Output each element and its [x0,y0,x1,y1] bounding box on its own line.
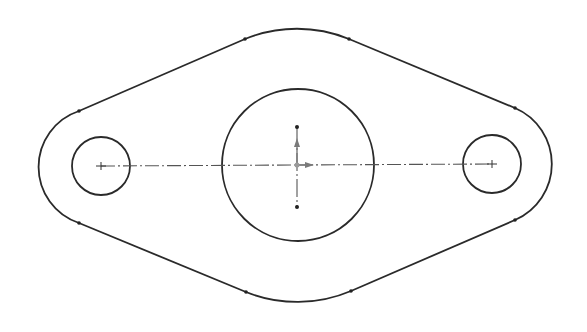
bottom-right-line[interactable] [351,220,515,291]
left-end-arc[interactable] [39,111,79,223]
sketch-canvas[interactable] [0,0,587,332]
sketch-point[interactable] [244,290,248,294]
sketch-point[interactable] [349,289,353,293]
sketch-point[interactable] [243,37,247,41]
left-hole-center-mark-icon [96,162,106,170]
sketch-point[interactable] [513,106,517,110]
centerline-endpoint[interactable] [295,205,299,209]
centerline-endpoint[interactable] [295,125,299,129]
origin-icon [294,138,314,168]
top-arc[interactable] [245,29,349,39]
sketch-point[interactable] [513,218,517,222]
right-hole-center-mark-icon [487,160,497,168]
bottom-arc[interactable] [246,291,351,302]
bottom-left-line[interactable] [79,223,246,292]
sketch-point[interactable] [77,109,81,113]
sketch-point[interactable] [347,37,351,41]
sketch-point[interactable] [77,221,81,225]
top-right-line[interactable] [349,39,515,108]
top-left-line[interactable] [79,39,245,111]
